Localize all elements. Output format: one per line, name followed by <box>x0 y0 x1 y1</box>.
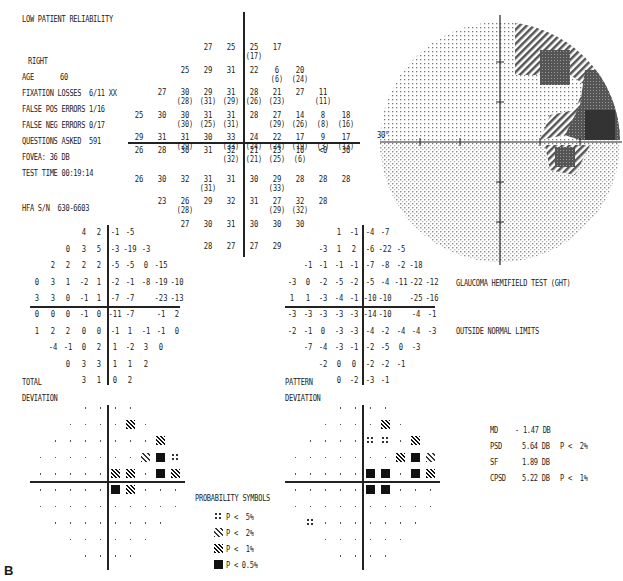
deviation-value: 5 <box>91 245 107 254</box>
normal-point-dot-icon <box>400 539 402 541</box>
normal-point-dot-icon <box>430 506 432 508</box>
deviation-value: 2 <box>91 343 107 352</box>
deviation-value: -11 <box>107 310 123 319</box>
deviation-value: 1 <box>122 360 138 369</box>
normal-point-dot-icon <box>340 457 342 459</box>
ght-result: OUTSIDE NORMAL LIMITS <box>456 326 539 336</box>
deviation-value: 2 <box>138 360 154 369</box>
normal-point-dot-icon <box>115 457 117 459</box>
threshold-cell: 29(31) <box>198 88 219 106</box>
deviation-value: 2 <box>169 310 185 319</box>
threshold-cell: 26 <box>129 175 150 184</box>
threshold-cell: 21(23) <box>267 88 288 106</box>
probability-symbol-icon <box>366 436 375 445</box>
probability-symbol-icon <box>411 469 420 478</box>
threshold-cell: 29 <box>129 133 150 142</box>
deviation-value: -7 <box>107 294 123 303</box>
deviation-value: 2 <box>45 261 61 270</box>
threshold-cell: 30 <box>244 220 265 229</box>
deviation-value: 3 <box>138 343 154 352</box>
normal-point-dot-icon <box>325 522 327 524</box>
deviation-value: -22 <box>377 245 393 254</box>
normal-point-dot-icon <box>370 522 372 524</box>
normal-point-dot-icon <box>355 457 357 459</box>
deviation-value: 0 <box>29 278 45 287</box>
deviation-value: 3 <box>45 278 61 287</box>
greyscale-plot <box>380 15 622 265</box>
threshold-value: 30 <box>204 132 213 142</box>
threshold-value: 28 <box>158 145 167 155</box>
normal-point-dot-icon <box>415 506 417 508</box>
threshold-value: 23 <box>158 196 167 206</box>
deviation-value: 0 <box>107 376 123 385</box>
normal-point-dot-icon <box>85 457 87 459</box>
normal-point-dot-icon <box>70 522 72 524</box>
normal-point-dot-icon <box>55 489 57 491</box>
threshold-cell: 18(16) <box>336 111 357 129</box>
normal-point-dot-icon <box>385 407 387 409</box>
threshold-repeat-value: (28) <box>175 206 196 215</box>
threshold-cell: 32(32) <box>221 146 242 164</box>
pd-horizontal-axis <box>285 306 435 308</box>
normal-point-dot-icon <box>70 539 72 541</box>
probability-symbol-icon <box>126 469 135 478</box>
deviation-value: -5 <box>331 278 347 287</box>
deviation-value: -3 <box>346 327 362 336</box>
deviation-value: 0 <box>346 360 362 369</box>
threshold-cell: 31(29) <box>221 88 242 106</box>
threshold-cell: 31(31) <box>198 175 219 193</box>
threshold-cell: 25 <box>175 66 196 75</box>
probability-symbol-icon <box>156 436 165 445</box>
threshold-cell: 27 <box>244 242 265 251</box>
pattern-deviation-label: DEVIATION <box>285 393 321 403</box>
deviation-value: -3 <box>300 310 316 319</box>
probability-symbol-icon <box>381 436 390 445</box>
tp-vertical-axis <box>107 405 109 570</box>
normal-point-dot-icon <box>160 522 162 524</box>
deviation-value: 2 <box>346 245 362 254</box>
deviation-value: -5 <box>377 343 393 352</box>
threshold-value: 30 <box>158 110 167 120</box>
threshold-cell: 10(6) <box>290 146 311 164</box>
threshold-cell: 21(21) <box>244 146 265 164</box>
legend-label: P < 0.5% <box>226 560 258 570</box>
deviation-value: -2 <box>346 376 362 385</box>
td-horizontal-axis <box>30 306 180 308</box>
deviation-value: -2 <box>122 343 138 352</box>
normal-point-dot-icon <box>145 440 147 442</box>
normal-point-dot-icon <box>400 522 402 524</box>
threshold-cell: <0 <box>313 146 334 155</box>
normal-point-dot-icon <box>145 506 147 508</box>
greyscale-field-icon <box>380 15 622 265</box>
deviation-value: -1 <box>377 376 393 385</box>
deviation-value: -3 <box>284 278 300 287</box>
pp-vertical-axis <box>362 405 364 570</box>
deviation-value: -5 <box>362 278 378 287</box>
legend-symbol-icon <box>214 512 223 521</box>
deviation-value: -25 <box>408 294 424 303</box>
normal-point-dot-icon <box>385 539 387 541</box>
figure-label: B <box>4 563 13 578</box>
deviation-value: -2 <box>315 278 331 287</box>
normal-point-dot-icon <box>160 506 162 508</box>
normal-point-dot-icon <box>70 473 72 475</box>
deviation-value: -1 <box>122 278 138 287</box>
threshold-repeat-value: (26) <box>290 120 311 129</box>
threshold-cell: 32(32) <box>290 197 311 215</box>
threshold-value: 28 <box>250 110 259 120</box>
legend-label: P < 2% <box>226 528 254 538</box>
threshold-value: <0 <box>319 145 328 155</box>
normal-point-dot-icon <box>145 473 147 475</box>
threshold-cell: 27 <box>290 88 311 97</box>
normal-point-dot-icon <box>400 489 402 491</box>
normal-point-dot-icon <box>385 522 387 524</box>
deviation-value: 1 <box>91 294 107 303</box>
normal-point-dot-icon <box>355 489 357 491</box>
deviation-value: -8 <box>377 261 393 270</box>
deviation-value: -5 <box>393 245 409 254</box>
deviation-value: -3 <box>424 327 440 336</box>
deviation-value: 0 <box>60 360 76 369</box>
deviation-value: 0 <box>331 360 347 369</box>
deviation-value: 3 <box>76 360 92 369</box>
threshold-repeat-value: (26) <box>244 97 265 106</box>
